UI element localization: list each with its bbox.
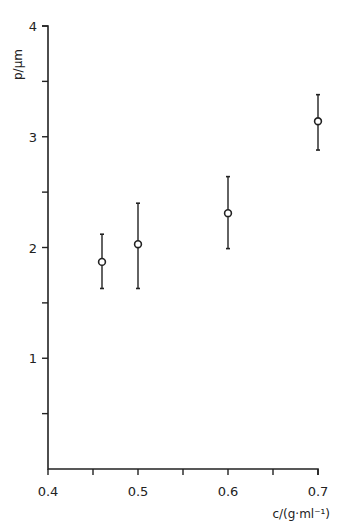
y-tick-label: 4	[29, 19, 37, 34]
data-point	[315, 95, 322, 150]
data-points	[99, 95, 322, 289]
x-tick-label: 0.5	[128, 484, 149, 499]
axes	[42, 26, 318, 475]
x-tick-label: 0.6	[218, 484, 239, 499]
data-point	[135, 203, 142, 288]
open-circle-marker	[225, 210, 232, 217]
x-tick-label: 0.7	[308, 484, 329, 499]
y-tick-label: 1	[29, 351, 37, 366]
y-axis-title: p/µm	[11, 49, 25, 80]
data-point	[99, 234, 106, 288]
open-circle-marker	[135, 241, 142, 248]
x-tick-label: 0.4	[38, 484, 59, 499]
tick-labels: 12340.40.50.60.7	[29, 19, 329, 499]
open-circle-marker	[315, 118, 322, 125]
tick-marks	[42, 26, 318, 475]
y-tick-label: 3	[29, 130, 37, 145]
data-point	[225, 177, 232, 249]
x-axis-title: c/(g·ml⁻¹)	[272, 507, 330, 521]
axis-lines	[42, 26, 318, 475]
chart: 12340.40.50.60.7 p/µm c/(g·ml⁻¹)	[0, 0, 341, 530]
y-tick-label: 2	[29, 241, 37, 256]
open-circle-marker	[99, 258, 106, 265]
